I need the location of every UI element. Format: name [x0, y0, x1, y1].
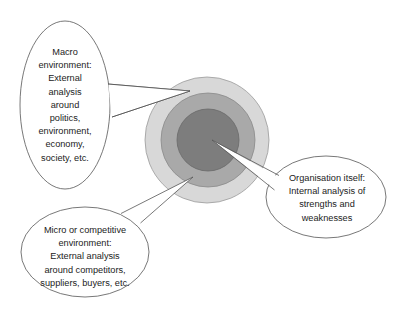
macro-line: around	[20, 99, 110, 112]
micro-line: around competitors,	[25, 264, 145, 277]
macro-line: society, etc.	[20, 152, 110, 165]
macro-line: politics,	[20, 112, 110, 125]
micro-line: External analysis	[25, 250, 145, 263]
macro-line: economy,	[20, 138, 110, 151]
inner-circle	[177, 109, 239, 171]
organisation-line: Internal analysis of	[272, 185, 382, 198]
macro-line: environment,	[20, 125, 110, 138]
organisation-line: Organisation itself:	[272, 172, 382, 185]
organisation-callout-text: Organisation itself: Internal analysis o…	[272, 172, 382, 225]
micro-callout-text: Micro or competitive environment: Extern…	[25, 224, 145, 290]
micro-line: environment:	[25, 237, 145, 250]
organisation-line: strengths and	[272, 198, 382, 211]
macro-line: Macro	[20, 46, 110, 59]
macro-line: External	[20, 72, 110, 85]
organisation-line: weaknesses	[272, 212, 382, 225]
macro-line: environment:	[20, 59, 110, 72]
micro-line: Micro or competitive	[25, 224, 145, 237]
macro-line: analysis	[20, 86, 110, 99]
macro-callout-text: Macro environment: External analysis aro…	[20, 46, 110, 165]
micro-line: suppliers, buyers, etc.	[25, 277, 145, 290]
